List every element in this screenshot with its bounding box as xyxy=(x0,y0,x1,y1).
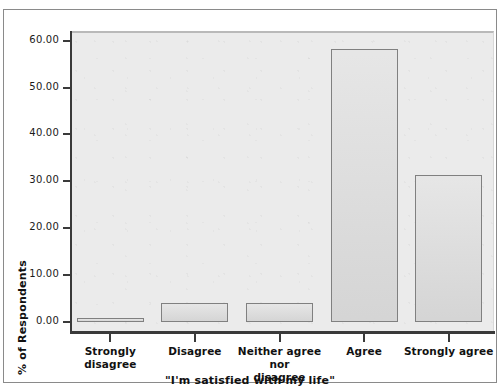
x-category-label-line: Neither agree nor xyxy=(231,345,328,371)
bar-shading xyxy=(332,50,397,321)
y-tick-mark xyxy=(63,40,70,42)
bar xyxy=(161,303,228,322)
x-category-label-line: Strongly agree xyxy=(400,345,497,358)
x-axis-line xyxy=(70,331,495,334)
x-tick-mark xyxy=(363,334,365,342)
y-tick-mark xyxy=(63,87,70,89)
bar xyxy=(331,49,398,322)
figure-frame: 0.0010.0020.0030.0040.0050.0060.00 Stron… xyxy=(3,9,497,383)
y-tick-label: 40.00 xyxy=(4,127,59,138)
bar xyxy=(77,318,144,322)
y-axis-title: % of Respondents xyxy=(16,245,29,375)
x-category-label: Strongly disagree xyxy=(62,345,159,371)
y-tick-label: 10.00 xyxy=(4,268,59,279)
bar-shading xyxy=(416,176,481,321)
bar-shading xyxy=(78,319,143,321)
y-tick-mark xyxy=(63,227,70,229)
y-tick-label: 50.00 xyxy=(4,81,59,92)
x-axis-title: "I'm satisfied with my life" xyxy=(4,374,496,387)
bar xyxy=(415,175,482,322)
y-tick-label: 30.00 xyxy=(4,174,59,185)
x-tick-mark xyxy=(109,334,111,342)
y-tick-mark xyxy=(63,133,70,135)
bar xyxy=(246,303,313,322)
x-category-label-line: Strongly disagree xyxy=(62,345,159,371)
bar-shading xyxy=(247,304,312,321)
x-category-label: Strongly agree xyxy=(400,345,497,358)
y-tick-label: 20.00 xyxy=(4,221,59,232)
bar-chart-figure: 0.0010.0020.0030.0040.0050.0060.00 Stron… xyxy=(0,0,500,391)
bar-shading xyxy=(162,304,227,321)
x-tick-mark xyxy=(448,334,450,342)
x-category-label: Disagree xyxy=(147,345,244,358)
x-category-label-line: Disagree xyxy=(147,345,244,358)
y-tick-label: 60.00 xyxy=(4,34,59,45)
x-tick-mark xyxy=(279,334,281,342)
y-tick-mark xyxy=(63,180,70,182)
x-tick-mark xyxy=(194,334,196,342)
y-axis-line xyxy=(70,31,72,333)
y-tick-label: 0.00 xyxy=(4,315,59,326)
x-category-label-line: Agree xyxy=(316,345,413,358)
y-tick-mark xyxy=(63,321,70,323)
y-tick-mark xyxy=(63,274,70,276)
x-category-label: Agree xyxy=(316,345,413,358)
